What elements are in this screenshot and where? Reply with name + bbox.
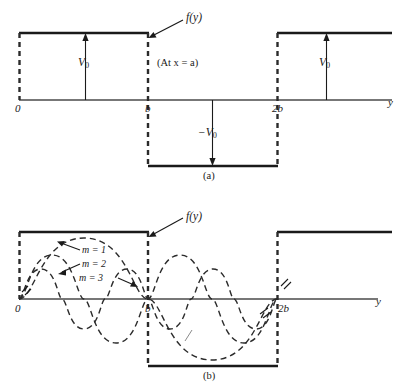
mode-label-m3: m = 3 — [79, 273, 103, 283]
tick-label-b-a: b — [145, 103, 151, 114]
axis-label-y-a: y — [388, 97, 393, 108]
mode-label-m1: m = 1 — [82, 245, 106, 255]
amplitude-label-middle-symbol: −V — [198, 126, 213, 138]
amplitude-label-right-symbol: V — [319, 56, 326, 68]
fy-leader-arrowhead-a — [149, 32, 157, 38]
amplitude-label-middle: −V0 — [198, 127, 217, 140]
caption-a: (a) — [203, 171, 215, 182]
amplitude-label-middle-subscript: 0 — [213, 131, 217, 140]
convergence-tick-2b-a — [281, 279, 288, 286]
axis-label-y-b: y — [376, 296, 381, 307]
tick-label-zero-b: 0 — [15, 303, 21, 314]
panel-a-graphic — [0, 0, 398, 196]
figure-root: f(y) (At x = a) V0 −V0 V0 0 b 2b y (a) — [0, 0, 398, 392]
amplitude-label-left-symbol: V — [78, 56, 85, 68]
amplitude-label-left: V0 — [78, 57, 89, 70]
convergence-tick-2b-b — [284, 282, 291, 289]
amplitude-label-right: V0 — [319, 57, 330, 70]
tick-label-b-b: b — [145, 303, 151, 314]
panel-b-graphic — [0, 196, 398, 392]
fy-leader-line-a — [152, 20, 183, 36]
fy-leader-line-b — [152, 218, 183, 235]
function-label-a: f(y) — [186, 12, 202, 24]
tick-label-2b-a: 2b — [272, 103, 283, 114]
tick-label-zero-a: 0 — [15, 103, 21, 114]
m1-leader-shaft — [61, 243, 80, 250]
amplitude-label-left-subscript: 0 — [85, 61, 89, 70]
tick-label-2b-b: 2b — [278, 303, 289, 314]
fy-leader-arrowhead-b — [149, 231, 157, 237]
convergence-tick-center — [185, 330, 192, 341]
mode-label-m2: m = 2 — [82, 259, 106, 269]
amplitude-label-right-subscript: 0 — [326, 61, 330, 70]
function-label-b: f(y) — [186, 211, 202, 223]
caption-b: (b) — [203, 371, 215, 382]
condition-note-a: (At x = a) — [157, 58, 198, 69]
m2-leader-head — [58, 270, 66, 276]
